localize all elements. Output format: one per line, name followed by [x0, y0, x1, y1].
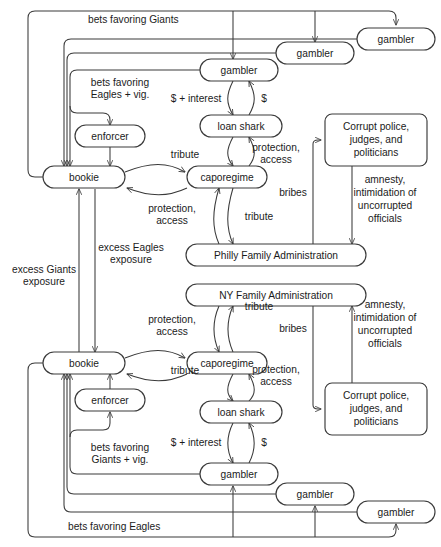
edge-label-amnesty-philly-l4: officials	[368, 213, 402, 224]
edge-label-dollar-interest-ny: $ + interest	[171, 437, 222, 448]
node-label: caporegime	[200, 172, 254, 183]
node-bookie-philly[interactable]: bookie	[43, 166, 125, 188]
node-gambler-philly-1[interactable]: gambler	[200, 59, 278, 81]
edge-caporegime-to-philly-tribute	[228, 188, 233, 244]
edge-label-bribes-ny: bribes	[279, 323, 307, 334]
edge-ny-caporegime-to-admin-tribute	[228, 306, 233, 352]
edge-label-bets-eagles-vig-l1: bets favoring	[91, 77, 150, 88]
edge-label-protection-loanshark-philly-l2: access	[260, 154, 292, 165]
node-label-line2: judges, and	[349, 403, 403, 414]
edge-ny-bookie-to-caporegime-protection	[125, 351, 185, 359]
edge-label-protection-capo-philly-l1: protection,	[148, 203, 196, 214]
node-label-line1: Corrupt police,	[343, 121, 409, 132]
node-label: NY Family Administration	[219, 290, 333, 301]
edge-loanshark-to-gambler1	[249, 81, 254, 115]
edge-label-bets-giants-vig-l2: Giants + vig.	[92, 454, 149, 465]
node-corrupt-police-philly[interactable]: Corrupt police, judges, and politicians	[325, 114, 427, 166]
edge-label-tribute-loanshark-philly: tribute	[171, 149, 200, 160]
edge-label-amnesty-ny-l3: uncorrupted	[358, 325, 413, 336]
edge-caporegime-to-bookie-protection	[127, 188, 187, 195]
node-bookie-ny[interactable]: bookie	[43, 352, 125, 374]
node-label-line3: politicians	[354, 147, 399, 158]
node-label: enforcer	[91, 395, 129, 406]
edge-ny-admin-to-corrupt-bribes	[313, 306, 321, 409]
node-label: gambler	[221, 469, 258, 480]
node-label: Philly Family Administration	[214, 250, 338, 261]
edge-gamblers-to-enforcer	[70, 106, 110, 125]
node-label: gambler	[378, 34, 415, 45]
edge-label-tribute-capo-philly: tribute	[245, 211, 274, 222]
edge-label-amnesty-philly-l3: uncorrupted	[358, 200, 413, 211]
edge-ny-gambler1-to-loanshark	[249, 423, 254, 463]
node-gambler-ny-2[interactable]: gambler	[276, 483, 354, 505]
node-label: loan shark	[217, 121, 265, 132]
edge-label-protection-loanshark-ny-l1: protection,	[252, 364, 300, 375]
edge-label-excess-giants-l2: exposure	[23, 276, 65, 287]
node-label: enforcer	[91, 131, 129, 142]
edge-label-excess-eagles-l2: exposure	[110, 254, 152, 265]
edge-label-tribute-admin-ny: tribute	[245, 301, 274, 312]
edge-layer	[28, 11, 396, 537]
crime-flow-diagram: gambler gambler gambler enforcer loan sh…	[0, 0, 441, 547]
edge-label-bets-eagles-vig-l2: Eagles + vig.	[91, 89, 150, 100]
edge-label-protection-capo-ny-l1: protection,	[148, 314, 196, 325]
node-enforcer-philly[interactable]: enforcer	[75, 125, 145, 147]
node-philly-family-administration[interactable]: Philly Family Administration	[186, 244, 366, 266]
node-loanshark-philly[interactable]: loan shark	[200, 115, 282, 137]
node-gambler-philly-2[interactable]: gambler	[276, 42, 354, 64]
node-label: gambler	[297, 489, 334, 500]
edge-philly-to-caporegime-protection	[214, 188, 219, 244]
node-label: bookie	[69, 358, 99, 369]
node-label: bookie	[69, 172, 99, 183]
node-corrupt-police-ny[interactable]: Corrupt police, judges, and politicians	[325, 383, 427, 435]
edge-label-bets-giants-vig-l1: bets favoring	[91, 442, 150, 453]
edge-ny-caporegime-to-loanshark	[228, 374, 233, 401]
node-ny-family-administration[interactable]: NY Family Administration	[186, 284, 366, 306]
edge-label-protection-loanshark-ny-l2: access	[260, 376, 292, 387]
node-label-line2: judges, and	[349, 134, 403, 145]
edge-label-amnesty-ny-l2: intimidation of	[354, 312, 417, 323]
edge-label-amnesty-philly-l1: amnesty,	[365, 174, 406, 185]
node-label: gambler	[378, 507, 415, 518]
node-label: loan shark	[217, 407, 265, 418]
node-loanshark-ny[interactable]: loan shark	[200, 401, 282, 423]
edge-ny-loanshark-to-gambler1	[228, 423, 233, 463]
edge-label-amnesty-ny-l4: officials	[368, 338, 402, 349]
edge-bookie-to-caporegime-tribute	[125, 165, 185, 173]
edge-philly-to-corrupt-bribes	[313, 140, 321, 244]
node-label: gambler	[221, 65, 258, 76]
edge-label-excess-giants-l1: excess Giants	[12, 264, 76, 275]
node-caporegime-philly[interactable]: caporegime	[187, 166, 267, 188]
diagram-canvas: gambler gambler gambler enforcer loan sh…	[0, 0, 441, 547]
node-label-line3: politicians	[354, 416, 399, 427]
node-gambler-ny-3[interactable]: gambler	[357, 501, 435, 523]
edge-label-protection-loanshark-philly-l1: protection,	[252, 142, 300, 153]
edge-label-bets-favoring-eagles: bets favoring Eagles	[68, 521, 160, 532]
node-enforcer-ny[interactable]: enforcer	[75, 389, 145, 411]
edge-gambler1-to-loanshark	[228, 81, 233, 115]
node-label: caporegime	[200, 358, 254, 369]
edge-label-protection-capo-ny-l2: access	[156, 326, 188, 337]
node-label: gambler	[297, 48, 334, 59]
node-gambler-philly-3[interactable]: gambler	[357, 28, 435, 50]
edge-loanshark-to-caporegime	[228, 137, 233, 166]
edge-label-amnesty-philly-l2: intimidation of	[354, 187, 417, 198]
edge-label-bribes-philly: bribes	[279, 187, 307, 198]
edge-ny-admin-to-caporegime-protection	[214, 306, 219, 352]
edge-label-protection-capo-philly-l2: access	[156, 215, 188, 226]
edge-label-dollar-ny: $	[261, 437, 267, 448]
edge-label-layer: bets favoring Giants bets favoring Eagle…	[12, 14, 417, 532]
edge-label-dollar-interest-philly: $ + interest	[171, 93, 222, 104]
edge-label-excess-eagles-l1: excess Eagles	[98, 242, 164, 253]
node-label-line1: Corrupt police,	[343, 390, 409, 401]
edge-ny-gamblers-to-enforcer	[70, 412, 110, 437]
edge-label-amnesty-ny-l1: amnesty,	[365, 299, 406, 310]
edge-ny-loanshark-to-caporegime	[249, 374, 254, 401]
edge-label-dollar-philly: $	[261, 93, 267, 104]
edge-label-bets-favoring-giants: bets favoring Giants	[88, 14, 179, 25]
node-gambler-ny-1[interactable]: gambler	[200, 463, 278, 485]
edge-label-tribute-loanshark-ny: tribute	[171, 365, 200, 376]
